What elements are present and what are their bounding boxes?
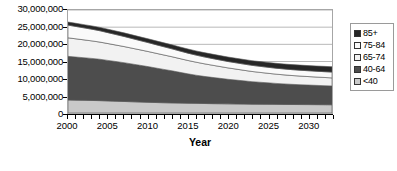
x-tick-mark bbox=[293, 115, 294, 119]
x-tick-mark bbox=[220, 115, 221, 119]
x-tick-label: 2030 bbox=[289, 121, 329, 131]
x-tick-label: 2015 bbox=[168, 121, 208, 131]
x-tick-mark bbox=[83, 115, 84, 119]
x-tick-mark bbox=[107, 115, 108, 119]
legend-item[interactable]: 40-64 bbox=[354, 63, 391, 75]
x-tick-mark bbox=[309, 115, 310, 119]
y-tick-label: 5,000,000 bbox=[0, 92, 63, 102]
y-tick-label: 15,000,000 bbox=[0, 57, 63, 67]
x-tick-label: 2020 bbox=[208, 121, 248, 131]
legend-swatch-icon bbox=[354, 54, 361, 61]
figure-container: 05,000,00010,000,00015,000,00020,000,000… bbox=[0, 0, 397, 171]
y-tick-mark bbox=[63, 97, 67, 98]
y-tick-label: 0 bbox=[0, 109, 63, 119]
legend-swatch-icon bbox=[354, 78, 361, 85]
x-tick-mark bbox=[164, 115, 165, 119]
legend-item[interactable]: 85+ bbox=[354, 27, 391, 39]
y-tick-mark bbox=[63, 114, 67, 115]
x-tick-mark bbox=[277, 115, 278, 119]
x-tick-mark bbox=[91, 115, 92, 119]
x-axis-title: Year bbox=[67, 136, 333, 148]
x-tick-label: 2000 bbox=[47, 121, 87, 131]
x-tick-mark bbox=[131, 115, 132, 119]
x-tick-mark bbox=[196, 115, 197, 119]
legend-item[interactable]: <40 bbox=[354, 75, 391, 87]
x-tick-mark bbox=[188, 115, 189, 119]
x-tick-mark bbox=[252, 115, 253, 119]
x-tick-mark bbox=[75, 115, 76, 119]
x-tick-mark bbox=[99, 115, 100, 119]
legend-swatch-icon bbox=[354, 30, 361, 37]
x-tick-mark bbox=[180, 115, 181, 119]
y-tick-label: 25,000,000 bbox=[0, 22, 63, 32]
x-tick-mark bbox=[301, 115, 302, 119]
x-tick-mark bbox=[212, 115, 213, 119]
y-tick-mark bbox=[63, 62, 67, 63]
y-tick-label: 20,000,000 bbox=[0, 39, 63, 49]
x-tick-mark bbox=[148, 115, 149, 119]
legend-swatch-icon bbox=[354, 66, 361, 73]
y-tick-mark bbox=[63, 9, 67, 10]
legend-label: 75-84 bbox=[363, 41, 385, 50]
x-tick-mark bbox=[156, 115, 157, 119]
x-tick-label: 2010 bbox=[128, 121, 168, 131]
chart-legend: 85+75-8465-7440-64<40 bbox=[350, 23, 394, 91]
x-tick-mark bbox=[228, 115, 229, 119]
x-tick-mark bbox=[317, 115, 318, 119]
legend-label: 65-74 bbox=[363, 53, 385, 62]
x-tick-label: 2025 bbox=[249, 121, 289, 131]
x-tick-mark bbox=[244, 115, 245, 119]
x-tick-mark bbox=[115, 115, 116, 119]
x-tick-mark bbox=[260, 115, 261, 119]
legend-label: 85+ bbox=[363, 29, 378, 38]
x-tick-mark bbox=[285, 115, 286, 119]
x-tick-mark bbox=[333, 115, 334, 119]
plot-area bbox=[67, 9, 333, 114]
y-tick-label: 10,000,000 bbox=[0, 74, 63, 84]
x-tick-mark bbox=[269, 115, 270, 119]
x-tick-mark bbox=[325, 115, 326, 119]
y-axis: 05,000,00010,000,00015,000,00020,000,000… bbox=[0, 0, 63, 123]
y-tick-mark bbox=[63, 44, 67, 45]
x-tick-mark bbox=[172, 115, 173, 119]
y-tick-mark bbox=[63, 27, 67, 28]
legend-item[interactable]: 75-84 bbox=[354, 39, 391, 51]
legend-label: <40 bbox=[363, 77, 378, 86]
x-tick-mark bbox=[204, 115, 205, 119]
legend-swatch-icon bbox=[354, 42, 361, 49]
x-tick-mark bbox=[67, 115, 68, 119]
x-tick-label: 2005 bbox=[87, 121, 127, 131]
x-tick-mark bbox=[140, 115, 141, 119]
x-tick-mark bbox=[123, 115, 124, 119]
y-tick-label: 30,000,000 bbox=[0, 4, 63, 14]
legend-label: 40-64 bbox=[363, 65, 385, 74]
stacked-area-plot bbox=[68, 10, 332, 113]
y-tick-mark bbox=[63, 79, 67, 80]
x-tick-mark bbox=[236, 115, 237, 119]
legend-item[interactable]: 65-74 bbox=[354, 51, 391, 63]
